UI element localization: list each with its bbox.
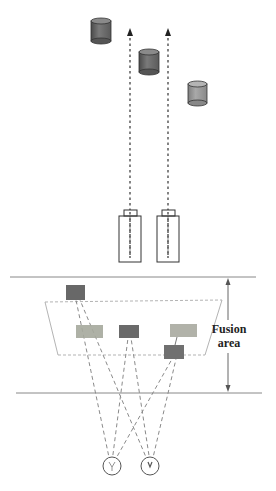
square-mid-center — [119, 325, 139, 338]
projection-rays — [76, 300, 176, 462]
arrowhead-left-icon — [127, 28, 133, 36]
fusion-area-diagram: Fusion area — [0, 0, 276, 491]
square-mid-left — [76, 325, 103, 338]
cylinder-1 — [91, 18, 111, 44]
fusion-label-line2: area — [218, 336, 240, 350]
square-low-right — [164, 345, 184, 359]
cylinder-3 — [188, 81, 207, 106]
square-mid-right — [170, 324, 197, 337]
eye-right — [141, 457, 159, 475]
fusion-label-line1: Fusion — [212, 322, 247, 336]
square-top-left — [66, 285, 85, 300]
arrowhead-down-icon — [226, 385, 231, 392]
cylinder-2 — [139, 49, 159, 75]
arrowhead-up-icon — [226, 278, 231, 285]
eye-left — [103, 457, 121, 475]
arrowhead-right-icon — [165, 28, 171, 36]
